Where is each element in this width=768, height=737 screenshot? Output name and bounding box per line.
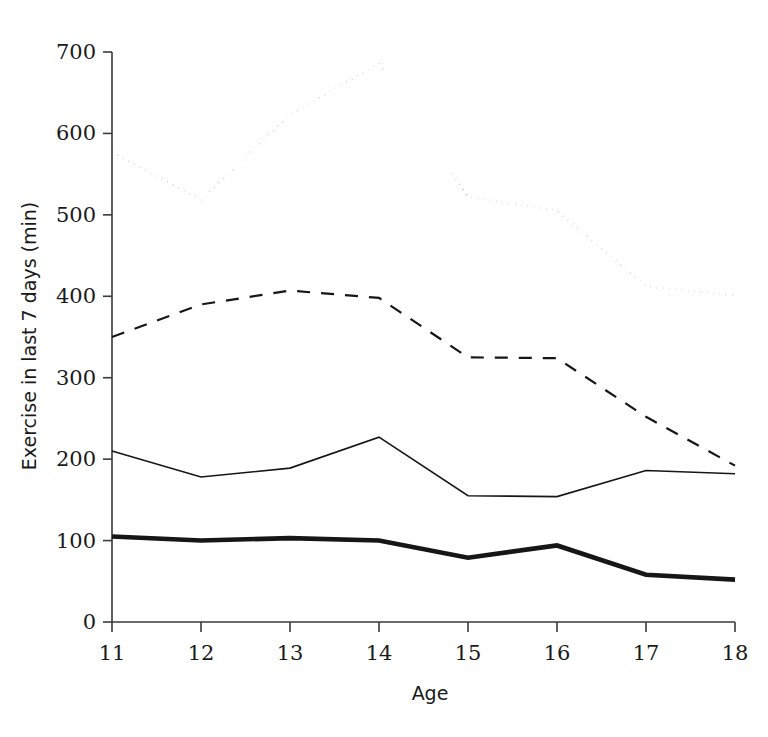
x-tick-label: 18 xyxy=(722,641,749,665)
y-tick-label: 0 xyxy=(83,610,96,634)
y-axis-title: Exercise in last 7 days (min) xyxy=(18,202,40,470)
dashed-series xyxy=(112,291,735,466)
y-tick-label: 300 xyxy=(56,366,96,390)
line-chart: 0100200300400500600700 1112131415161718 … xyxy=(0,0,768,737)
dotted-series xyxy=(112,63,735,295)
y-axis-ticks: 0100200300400500600700 xyxy=(56,40,112,634)
x-tick-label: 15 xyxy=(455,641,482,665)
x-axis-ticks: 1112131415161718 xyxy=(99,622,749,665)
x-tick-label: 11 xyxy=(99,641,126,665)
thin-solid-series xyxy=(112,437,735,496)
y-tick-label: 700 xyxy=(56,40,96,64)
x-tick-label: 12 xyxy=(188,641,215,665)
x-tick-label: 16 xyxy=(544,641,571,665)
y-tick-label: 600 xyxy=(56,121,96,145)
y-tick-label: 400 xyxy=(56,284,96,308)
y-tick-label: 100 xyxy=(56,529,96,553)
y-tick-label: 200 xyxy=(56,447,96,471)
chart-figure: 0100200300400500600700 1112131415161718 … xyxy=(0,0,768,737)
series-group xyxy=(112,63,735,579)
x-tick-label: 13 xyxy=(277,641,304,665)
x-tick-label: 14 xyxy=(366,641,393,665)
thick-solid-series xyxy=(112,537,735,580)
x-axis-title: Age xyxy=(412,682,449,704)
y-tick-label: 500 xyxy=(56,203,96,227)
x-tick-label: 17 xyxy=(633,641,660,665)
